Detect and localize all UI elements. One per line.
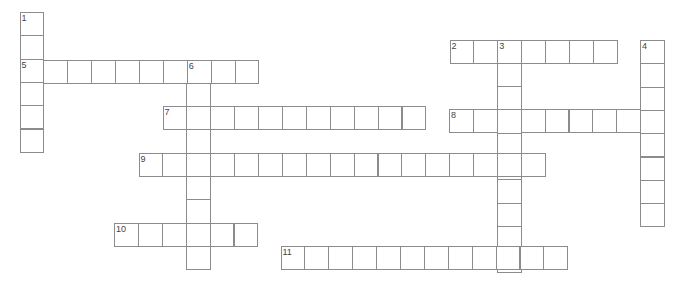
crossword-cell[interactable] <box>330 153 355 177</box>
crossword-cell[interactable] <box>138 223 163 247</box>
crossword-cell[interactable]: 8 <box>449 109 474 133</box>
crossword-cell[interactable] <box>616 109 641 133</box>
crossword-cell[interactable] <box>448 246 473 270</box>
crossword-cell[interactable] <box>543 246 568 270</box>
crossword-cell[interactable] <box>186 223 211 247</box>
crossword-cell[interactable]: 5 <box>20 59 45 83</box>
crossword-cell[interactable] <box>186 129 211 153</box>
crossword-cell[interactable] <box>162 223 187 247</box>
crossword-cell[interactable] <box>640 157 665 181</box>
crossword-cell[interactable] <box>282 153 307 177</box>
crossword-cell[interactable] <box>304 246 329 270</box>
crossword-cell[interactable] <box>473 109 498 133</box>
clue-number: 11 <box>283 247 292 257</box>
crossword-cell[interactable] <box>186 83 211 107</box>
crossword-cell[interactable] <box>186 106 211 130</box>
crossword-cell[interactable] <box>20 82 45 106</box>
crossword-cell[interactable]: 4 <box>640 40 665 64</box>
crossword-cell[interactable] <box>496 246 521 270</box>
crossword-cell[interactable] <box>20 105 45 129</box>
crossword-cell[interactable] <box>234 153 259 177</box>
crossword-cell[interactable] <box>115 60 140 84</box>
crossword-cell[interactable] <box>378 153 403 177</box>
crossword-cell[interactable] <box>400 246 425 270</box>
crossword-cell[interactable] <box>354 153 379 177</box>
crossword-cell[interactable] <box>640 133 665 157</box>
crossword-cell[interactable] <box>640 180 665 204</box>
crossword-cell[interactable] <box>258 106 283 130</box>
crossword-cell[interactable] <box>376 246 401 270</box>
crossword-cell[interactable] <box>163 60 188 84</box>
crossword-cell[interactable] <box>354 106 379 130</box>
crossword-cell[interactable] <box>545 40 570 64</box>
clue-number: 9 <box>141 154 146 164</box>
crossword-cell[interactable] <box>425 153 450 177</box>
crossword-cell[interactable] <box>186 246 211 270</box>
crossword-cell[interactable] <box>569 40 594 64</box>
crossword-cell[interactable]: 2 <box>450 40 475 64</box>
crossword-cell[interactable] <box>210 223 235 247</box>
crossword-cell[interactable] <box>521 40 546 64</box>
crossword-cell[interactable] <box>640 203 665 227</box>
crossword-cell[interactable] <box>401 153 426 177</box>
crossword-cell[interactable] <box>330 106 355 130</box>
crossword-cell[interactable] <box>234 223 259 247</box>
crossword-cell[interactable] <box>473 153 498 177</box>
crossword-cell[interactable] <box>20 35 45 59</box>
crossword-cell[interactable] <box>210 153 235 177</box>
crossword-cell[interactable] <box>43 60 68 84</box>
crossword-cell[interactable] <box>521 109 546 133</box>
crossword-cell[interactable] <box>211 60 236 84</box>
crossword-cell[interactable] <box>593 40 618 64</box>
crossword-cell[interactable]: 11 <box>281 246 306 270</box>
crossword-cell[interactable] <box>306 106 331 130</box>
crossword-cell[interactable] <box>20 129 45 153</box>
clue-number: 10 <box>116 224 126 234</box>
crossword-cell[interactable]: 10 <box>114 223 139 247</box>
crossword-cell[interactable] <box>497 86 522 110</box>
crossword-cell[interactable] <box>91 60 116 84</box>
crossword-cell[interactable] <box>497 203 522 227</box>
crossword-cell[interactable] <box>306 153 331 177</box>
crossword-cell[interactable] <box>497 153 522 177</box>
crossword-cell[interactable]: 1 <box>20 12 45 36</box>
crossword-cell[interactable]: 6 <box>187 60 212 84</box>
clue-number: 5 <box>22 60 27 70</box>
crossword-cell[interactable] <box>234 106 259 130</box>
crossword-cell[interactable] <box>449 153 474 177</box>
crossword-cell[interactable] <box>497 63 522 87</box>
clue-number: 1 <box>22 13 27 23</box>
crossword-cell[interactable] <box>186 199 211 223</box>
crossword-cell[interactable] <box>162 153 187 177</box>
crossword-cell[interactable] <box>497 179 522 203</box>
crossword-cell[interactable]: 3 <box>497 40 522 64</box>
crossword-cell[interactable] <box>328 246 353 270</box>
crossword-cell[interactable]: 7 <box>163 106 188 130</box>
crossword-cell[interactable]: 9 <box>139 153 164 177</box>
crossword-cell[interactable] <box>497 109 522 133</box>
crossword-cell[interactable] <box>545 109 570 133</box>
crossword-cell[interactable] <box>472 246 497 270</box>
crossword-cell[interactable] <box>235 60 260 84</box>
crossword-cell[interactable] <box>402 106 427 130</box>
crossword-cell[interactable] <box>186 153 211 177</box>
crossword-cell[interactable] <box>186 176 211 200</box>
crossword-cell[interactable] <box>67 60 92 84</box>
crossword-cell[interactable] <box>640 87 665 111</box>
crossword-cell[interactable] <box>378 106 403 130</box>
crossword-cell[interactable] <box>282 106 307 130</box>
crossword-cell[interactable] <box>258 153 283 177</box>
crossword-cell[interactable] <box>473 40 498 64</box>
crossword-cell[interactable] <box>521 153 546 177</box>
crossword-cell[interactable] <box>520 246 545 270</box>
crossword-cell[interactable] <box>592 109 617 133</box>
clue-number: 2 <box>452 41 457 51</box>
crossword-cell[interactable] <box>139 60 164 84</box>
crossword-cell[interactable] <box>640 110 665 134</box>
crossword-cell[interactable] <box>569 109 594 133</box>
clue-number: 8 <box>451 110 456 120</box>
crossword-cell[interactable] <box>424 246 449 270</box>
crossword-cell[interactable] <box>640 63 665 87</box>
crossword-cell[interactable] <box>210 106 235 130</box>
crossword-cell[interactable] <box>352 246 377 270</box>
